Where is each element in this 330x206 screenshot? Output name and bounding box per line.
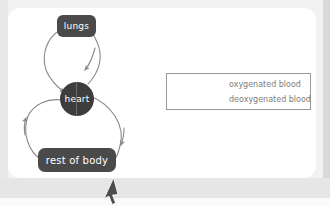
heart-septum-divider	[76, 82, 77, 116]
node-rest-of-body-label: rest of body	[46, 155, 108, 166]
legend-item-oxygenated: oxygenated blood	[173, 77, 301, 91]
node-lungs-label: lungs	[64, 21, 89, 31]
node-rest-of-body[interactable]: rest of body	[38, 148, 116, 172]
right-edge-band	[323, 0, 330, 182]
bottom-band-lower	[0, 198, 330, 206]
legend-label-oxygenated: oxygenated blood	[229, 80, 301, 89]
legend-label-deoxygenated: deoxygenated blood	[229, 95, 311, 104]
left-edge-band	[0, 0, 8, 182]
node-heart[interactable]: heart	[60, 82, 94, 116]
legend-swatch-deoxygenated	[173, 94, 225, 104]
screenshot-stage: lungs heart rest of body oxygenated bloo…	[0, 0, 330, 206]
node-lungs[interactable]: lungs	[57, 15, 96, 37]
node-heart-label: heart	[65, 94, 90, 104]
bottom-band	[0, 178, 330, 200]
legend-box: oxygenated blood deoxygenated blood	[166, 73, 311, 110]
legend-swatch-oxygenated	[173, 79, 225, 89]
legend-item-deoxygenated: deoxygenated blood	[173, 92, 311, 106]
